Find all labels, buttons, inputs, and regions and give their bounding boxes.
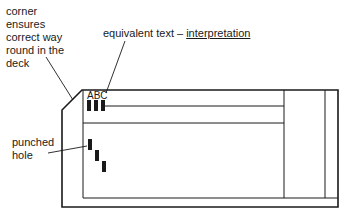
punched-hole-icon bbox=[94, 100, 98, 111]
punched-card-diagram bbox=[0, 0, 351, 216]
corner-leader bbox=[46, 57, 73, 100]
punched-holes bbox=[87, 100, 106, 172]
punched-hole-icon bbox=[88, 139, 92, 150]
punched-hole-icon bbox=[95, 150, 99, 161]
punched-hole-icon bbox=[101, 100, 105, 111]
text-leader bbox=[106, 41, 125, 93]
punched-hole-icon bbox=[87, 100, 91, 111]
hole-leader bbox=[48, 146, 87, 153]
punched-hole-icon bbox=[102, 161, 106, 172]
